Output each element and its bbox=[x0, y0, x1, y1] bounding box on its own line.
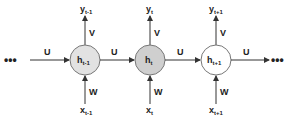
edge-label-u: U bbox=[111, 47, 118, 57]
edge-label-u: U bbox=[177, 47, 184, 57]
edge-label-v: V bbox=[220, 28, 226, 38]
edge-label-w: W bbox=[89, 87, 98, 97]
node-h-next: V yt+1 ht+1 W xt+1 bbox=[201, 4, 231, 116]
edge-label-v: V bbox=[89, 28, 95, 38]
edge-label-w: W bbox=[220, 87, 229, 97]
input-label: xt bbox=[146, 105, 153, 116]
rnn-diagram: ••• U V yt-1 ht-1 W xt-1 U V yt ht W xt … bbox=[0, 0, 303, 120]
edge-label-u: U bbox=[243, 47, 250, 57]
node-h-prev: V yt-1 ht-1 W xt-1 bbox=[70, 4, 100, 116]
output-label: yt+1 bbox=[209, 4, 224, 15]
ellipsis-right: ••• bbox=[271, 53, 284, 67]
input-label: xt+1 bbox=[209, 105, 224, 116]
ellipsis-left: ••• bbox=[4, 53, 17, 67]
input-label: xt-1 bbox=[80, 105, 93, 116]
edge-label-v: V bbox=[154, 28, 160, 38]
edge-label-u: U bbox=[44, 47, 51, 57]
output-label: yt bbox=[146, 4, 153, 15]
node-h-curr: V yt ht W xt bbox=[135, 4, 165, 116]
output-label: yt-1 bbox=[80, 4, 93, 15]
edge-label-w: W bbox=[154, 87, 163, 97]
